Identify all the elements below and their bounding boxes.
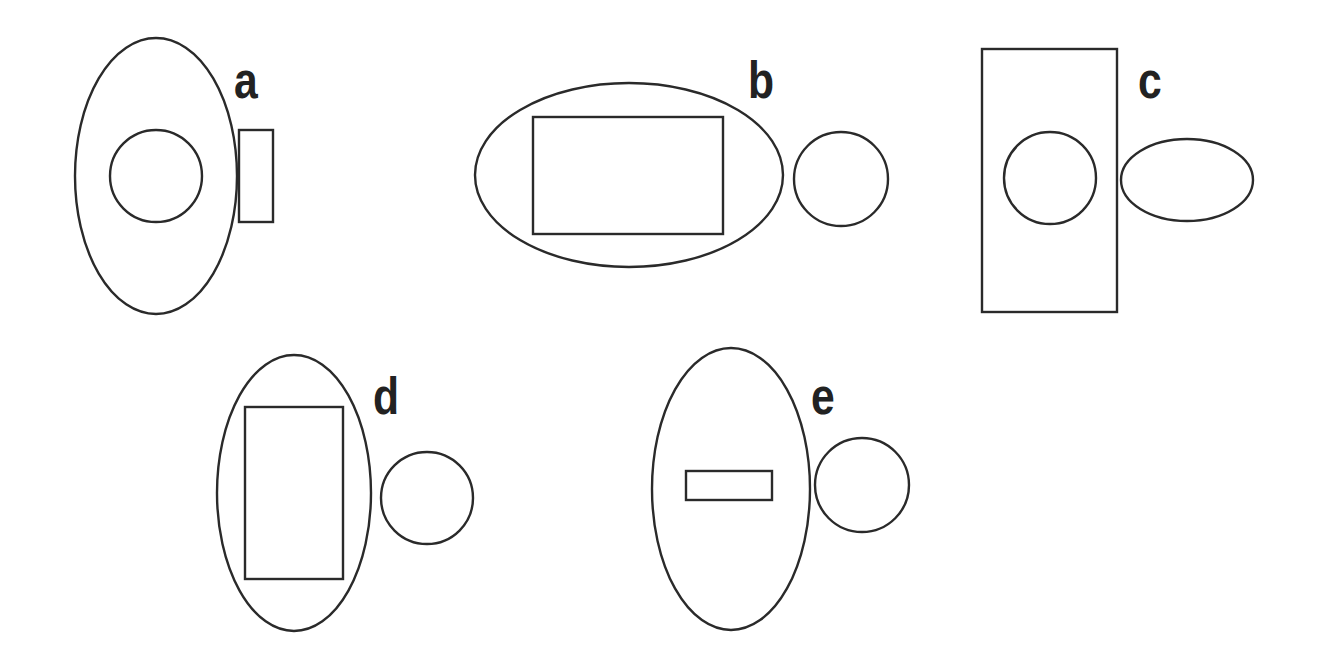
panel-d xyxy=(217,355,473,631)
c-adjacent-ellipse xyxy=(1121,139,1253,221)
d-adjacent-circle xyxy=(381,452,473,544)
shapes-layer xyxy=(0,0,1320,667)
a-outer-ellipse xyxy=(75,38,237,314)
d-outer-ellipse xyxy=(217,355,371,631)
e-adjacent-circle xyxy=(815,438,909,532)
panel-c xyxy=(982,49,1253,312)
e-outer-ellipse xyxy=(652,348,810,630)
panel-label-b: b xyxy=(748,54,773,106)
b-adjacent-circle xyxy=(794,132,888,226)
e-inner-rect xyxy=(686,471,772,500)
a-adjacent-rect xyxy=(239,130,273,222)
b-outer-ellipse xyxy=(475,83,783,267)
panel-label-a: a xyxy=(234,54,257,106)
diagram-canvas: a b c d e xyxy=(0,0,1320,667)
panel-label-e: e xyxy=(811,370,834,422)
panel-e xyxy=(652,348,909,630)
panel-b xyxy=(475,83,888,267)
c-inner-circle xyxy=(1004,132,1096,224)
panel-label-d: d xyxy=(373,370,398,422)
a-inner-circle xyxy=(110,130,202,222)
panel-label-c: c xyxy=(1138,54,1161,106)
b-inner-rect xyxy=(533,117,723,234)
d-inner-rect xyxy=(245,407,343,579)
